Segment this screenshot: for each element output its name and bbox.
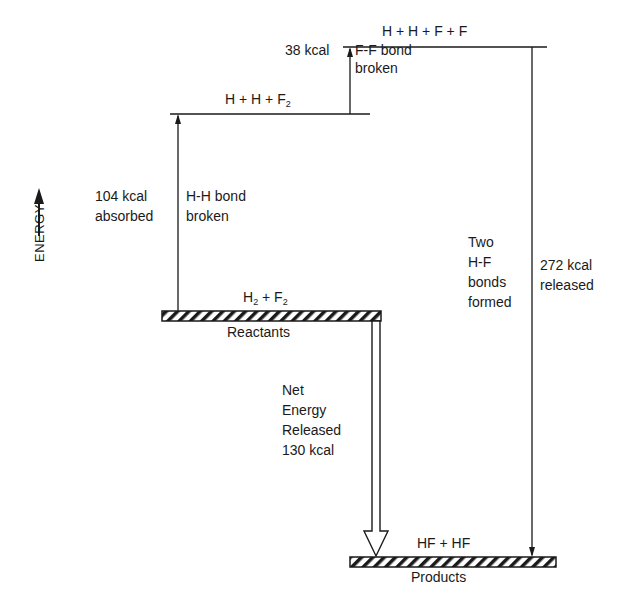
reactants-caption: Reactants [227,324,290,341]
net-energy-hollow-arrow [364,321,388,556]
reactants-bar [162,311,381,321]
reactants-plus-f: + F [258,289,283,305]
hf-form-desc-line2: H-F [468,254,491,271]
products-formula: HF + HF [417,535,470,552]
hf-form-desc-line1: Two [468,234,494,251]
net-energy-line4: 130 kcal [282,442,334,459]
hf-form-desc-line3: bonds [468,274,506,291]
hf-form-amount-line1: 272 kcal [540,257,592,274]
net-energy-line2: Energy [282,402,326,419]
energy-diagram-graphics [0,0,635,610]
ff-break-desc-line2: broken [355,60,398,77]
hh-break-desc-line2: broken [186,208,229,225]
ff-break-desc-line1: F-F bond [355,42,412,59]
ff-break-amount: 38 kcal [285,42,329,59]
reactants-h: H [243,289,253,305]
hf-form-desc-line4: formed [468,294,512,311]
intermediate-label-main: H + H + F [225,91,286,107]
reactants-f-subscript: 2 [283,297,288,307]
hh-break-desc-line1: H-H bond [186,188,246,205]
energy-axis-label: ENERGY [32,204,47,262]
hh-break-amount-line2: absorbed [95,208,153,225]
reactants-formula: H2 + F2 [243,289,288,311]
intermediate-level-label: H + H + F2 [225,91,291,113]
products-bar [350,557,556,567]
net-energy-line1: Net [282,382,304,399]
atoms-level-label: H + H + F + F [382,23,467,40]
products-caption: Products [411,569,466,586]
net-energy-line3: Released [282,422,341,439]
hh-break-amount-line1: 104 kcal [95,188,147,205]
hf-form-amount-line2: released [540,277,594,294]
intermediate-label-subscript: 2 [286,99,291,109]
